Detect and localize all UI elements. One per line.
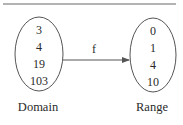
- function-mapping-diagram: 3 4 19 103 Domain f 0 1 4 10 Range: [0, 0, 183, 125]
- domain-value: 3: [36, 23, 42, 37]
- range-value: 0: [150, 24, 156, 38]
- function-label: f: [92, 42, 96, 56]
- domain-label: Domain: [18, 100, 59, 114]
- domain-value: 4: [36, 40, 42, 54]
- domain-value: 103: [30, 74, 48, 88]
- range-value: 10: [147, 75, 159, 89]
- range-label: Range: [136, 100, 168, 114]
- domain-value: 19: [33, 57, 45, 71]
- range-value: 1: [150, 41, 156, 55]
- range-value: 4: [150, 58, 156, 72]
